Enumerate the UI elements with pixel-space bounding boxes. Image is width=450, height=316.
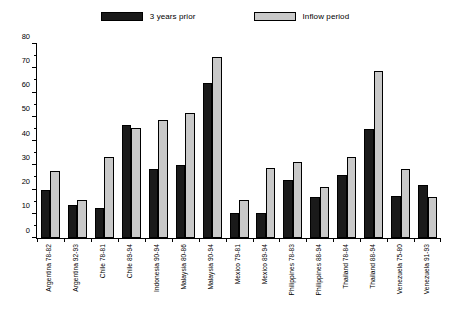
- bar-group: [172, 44, 199, 238]
- x-axis-label: Chile 78-81: [100, 244, 107, 278]
- x-axis-label-cell: Philippines 88-94: [305, 244, 332, 314]
- x-axis-tick: [226, 238, 227, 242]
- bar-group: [226, 44, 253, 238]
- bar-inflow: [347, 157, 357, 238]
- bar-group: [414, 44, 441, 238]
- bar-group: [253, 44, 280, 238]
- x-axis-tick: [414, 238, 415, 242]
- bar-group: [64, 44, 91, 238]
- legend-entry-inflow: Inflow period: [254, 12, 350, 21]
- bar-prior: [391, 196, 401, 238]
- x-axis-tick: [172, 238, 173, 242]
- x-axis-labels: Argentina 78-82Argentina 92-93Chile 78-8…: [36, 244, 440, 314]
- bar-prior: [310, 197, 320, 238]
- bar-group: [118, 44, 145, 238]
- x-axis-label: Venezuela 91-93: [423, 244, 430, 294]
- bar-group: [91, 44, 118, 238]
- x-axis-tick: [199, 238, 200, 242]
- chart-legend: 3 years prior Inflow period: [0, 12, 450, 21]
- bar-inflow: [158, 120, 168, 238]
- bar-group: [333, 44, 360, 238]
- y-axis-label: 70: [22, 57, 30, 65]
- x-axis-label: Argentina 92-93: [73, 244, 80, 292]
- x-axis-tick: [64, 238, 65, 242]
- x-axis-tick: [253, 238, 254, 242]
- bar-inflow: [50, 171, 60, 238]
- x-axis-label: Mexico 79-81: [235, 244, 242, 284]
- bar-inflow: [212, 57, 222, 238]
- bar-inflow: [104, 157, 114, 238]
- plot-area: 01020304050607080: [36, 44, 441, 239]
- legend-swatch-inflow: [254, 12, 296, 21]
- bar-prior: [337, 175, 347, 238]
- x-axis-label: Indonesia 90-94: [154, 244, 161, 292]
- bar-prior: [418, 185, 428, 238]
- bar-prior: [203, 83, 213, 238]
- y-axis-label: 30: [22, 154, 30, 162]
- x-axis-label-cell: Mexico 79-81: [225, 244, 252, 314]
- x-axis-label: Mexico 89-94: [262, 244, 269, 284]
- bar-inflow: [131, 128, 141, 238]
- x-axis-label-cell: Thailand 88-94: [359, 244, 386, 314]
- y-axis-label: 0: [26, 227, 30, 235]
- x-axis-label-cell: Philippines 78-83: [278, 244, 305, 314]
- bar-inflow: [401, 169, 411, 238]
- x-axis-label-cell: Malaysia 80-86: [171, 244, 198, 314]
- legend-swatch-prior: [101, 12, 143, 21]
- x-axis-label-cell: Chile 78-81: [90, 244, 117, 314]
- legend-entry-prior: 3 years prior: [101, 12, 196, 21]
- x-axis-label-cell: Argentina 92-93: [63, 244, 90, 314]
- x-axis-tick: [279, 238, 280, 242]
- x-axis-tick: [306, 238, 307, 242]
- x-axis-label: Thailand 78-84: [342, 244, 349, 289]
- x-axis-label-cell: Venezuela 91-93: [413, 244, 440, 314]
- bar-group: [360, 44, 387, 238]
- bar-prior: [256, 213, 266, 238]
- bar-prior: [364, 129, 374, 238]
- x-axis-label: Venezuela 75-80: [396, 244, 403, 294]
- bar-inflow: [77, 200, 87, 238]
- bar-inflow: [239, 200, 249, 238]
- bar-group: [37, 44, 64, 238]
- x-axis-label-cell: Thailand 78-84: [332, 244, 359, 314]
- x-axis-label: Chile 89-94: [127, 244, 134, 278]
- y-axis-label: 40: [22, 130, 30, 138]
- bar-prior: [149, 169, 159, 238]
- bar-group: [199, 44, 226, 238]
- bar-chart: 3 years prior Inflow period 010203040506…: [0, 0, 450, 316]
- x-axis-label: Philippines 88-94: [316, 244, 323, 295]
- x-axis-label: Malaysia 80-86: [181, 244, 188, 289]
- bars-area: [37, 44, 441, 238]
- bar-prior: [283, 180, 293, 238]
- x-axis-tick: [91, 238, 92, 242]
- x-axis-label-cell: Argentina 78-82: [36, 244, 63, 314]
- y-axis-label: 10: [22, 203, 30, 211]
- x-axis-tick: [37, 238, 38, 242]
- x-axis-label: Malaysia 90-94: [208, 244, 215, 289]
- x-axis-label-cell: Mexico 89-94: [252, 244, 279, 314]
- bar-group: [306, 44, 333, 238]
- bar-inflow: [428, 197, 438, 238]
- x-axis-tick: [360, 238, 361, 242]
- bar-inflow: [374, 71, 384, 238]
- legend-label-prior: 3 years prior: [150, 12, 196, 21]
- y-axis-label: 80: [22, 33, 30, 41]
- bar-inflow: [185, 113, 195, 238]
- x-axis-tick: [387, 238, 388, 242]
- x-axis-label-cell: Malaysia 90-94: [198, 244, 225, 314]
- bar-group: [387, 44, 414, 238]
- bar-prior: [68, 205, 78, 238]
- x-axis-label-cell: Chile 89-94: [117, 244, 144, 314]
- legend-label-inflow: Inflow period: [303, 12, 350, 21]
- x-axis-tick: [118, 238, 119, 242]
- x-axis-tick: [440, 238, 441, 242]
- x-axis-label: Philippines 78-83: [289, 244, 296, 295]
- bar-prior: [230, 213, 240, 238]
- bar-prior: [122, 125, 132, 238]
- y-axis-label: 20: [22, 178, 30, 186]
- x-axis-label: Argentina 78-82: [46, 244, 53, 292]
- x-axis-label-cell: Indonesia 90-94: [144, 244, 171, 314]
- bar-prior: [176, 165, 186, 238]
- bar-group: [145, 44, 172, 238]
- bar-prior: [95, 208, 105, 238]
